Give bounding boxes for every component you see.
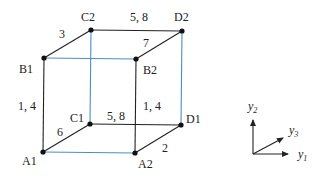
edge-a1-c1 [43,124,90,152]
node-c1 [87,121,92,126]
edge-label: 6 [57,125,63,139]
edge-b1-b2 [44,58,136,59]
node-label: A2 [138,157,153,171]
cube-edges [43,30,182,153]
edge-b1-c2 [44,30,91,58]
edge-label: 2 [162,141,168,155]
node-a1 [40,149,45,154]
node-labels: A1A2B1B2C1C2D1D2 [19,10,201,171]
node-d1 [178,122,183,127]
axis-y3-arrow [253,138,283,154]
node-label: C1 [70,111,84,125]
axis-y3-label: y3 [288,123,298,139]
edge-label: 7 [143,36,149,50]
edge-b1-a1 [43,58,44,152]
edge-c1-d1 [90,124,181,125]
edge-label: 1, 4 [143,99,161,113]
edge-a1-a2 [43,152,135,153]
coordinate-axes: y1y2y3 [247,99,307,163]
node-label: B1 [19,62,33,76]
node-label: D1 [186,112,201,126]
edge-c2-d2 [91,30,182,31]
edge-label: 5, 8 [107,109,125,123]
edge-label: 1, 4 [18,99,36,113]
edge-c2-c1 [90,30,91,124]
edge-d1-a2 [135,125,181,153]
axis-y1-label: y1 [297,147,307,163]
cube-diagram: 35, 871, 41, 465, 82 A1A2B1B2C1C2D1D2 y1… [0,0,328,180]
edge-label: 5, 8 [130,10,148,24]
node-b1 [41,55,46,60]
node-c2 [88,27,93,32]
node-label: C2 [81,10,95,24]
edge-b2-a2 [135,59,136,153]
node-label: D2 [174,10,189,24]
edge-d2-d1 [181,31,182,125]
node-b2 [133,56,138,61]
node-a2 [132,150,137,155]
node-label: B2 [143,63,157,77]
node-label: A1 [22,154,37,168]
edge-label: 3 [59,27,65,41]
axis-y2-label: y2 [247,99,257,115]
node-d2 [179,28,184,33]
edge-labels: 35, 871, 41, 465, 82 [18,10,168,155]
